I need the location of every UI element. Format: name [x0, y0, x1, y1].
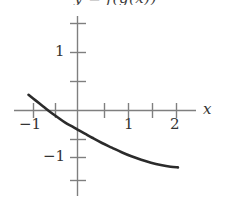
- function-graph-figure: y = f(g(x)) −1 1 2 1 −1 x: [0, 0, 231, 200]
- x-tick-label-2: 2: [170, 117, 180, 132]
- x-tick-label-1: 1: [124, 117, 134, 132]
- plot-area: [0, 0, 231, 200]
- y-tick-label-1: 1: [55, 44, 65, 59]
- x-tick-label-neg1: −1: [19, 117, 41, 132]
- x-axis-label: x: [203, 102, 211, 117]
- y-tick-label-neg1: −1: [43, 149, 65, 164]
